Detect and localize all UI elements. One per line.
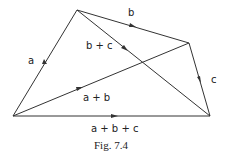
label-a-plus-b: a + b [83, 92, 110, 103]
label-c: c [211, 74, 217, 85]
figure-caption: Fig. 7.4 [94, 139, 128, 151]
arrow-a-plus-b-icon [76, 87, 83, 91]
label-a: a [28, 55, 34, 66]
arrow-a-plus-b-plus-c-icon [111, 114, 118, 118]
vector-diagram: a b b + c c a + b a + b + c Fig. 7.4 [0, 0, 229, 154]
arrow-b-icon [129, 23, 136, 27]
label-b: b [128, 7, 134, 18]
vector-a-plus-b [13, 43, 189, 116]
label-a-plus-b-plus-c: a + b + c [91, 123, 138, 134]
label-b-plus-c: b + c [86, 40, 113, 51]
arrow-c-icon [197, 76, 201, 83]
